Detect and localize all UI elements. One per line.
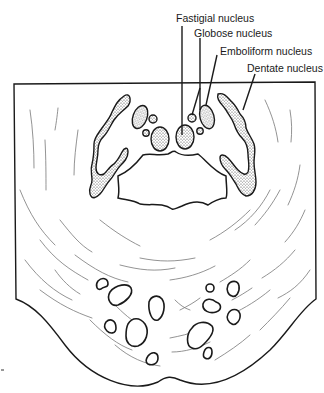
label-dentate-nucleus: Dentate nucleus: [247, 62, 323, 74]
label-fastigial-nucleus: Fastigial nucleus: [176, 12, 254, 24]
globose-nucleus-left-lower: [143, 130, 149, 136]
label-globose-nucleus: Globose nucleus: [194, 27, 272, 39]
globose-nucleus-right-lower: [197, 128, 203, 134]
globose-nucleus-left-upper: [149, 115, 157, 123]
section-outline: [14, 82, 316, 386]
cerebellar-nuclei-diagram: Fastigial nucleus Globose nucleus Emboli…: [0, 0, 324, 393]
fastigial-nucleus-right: [176, 125, 194, 149]
fastigial-nucleus-left: [151, 127, 169, 151]
label-emboliform-nucleus: Emboliform nucleus: [220, 45, 312, 57]
globose-nucleus-right-upper: [188, 114, 196, 122]
